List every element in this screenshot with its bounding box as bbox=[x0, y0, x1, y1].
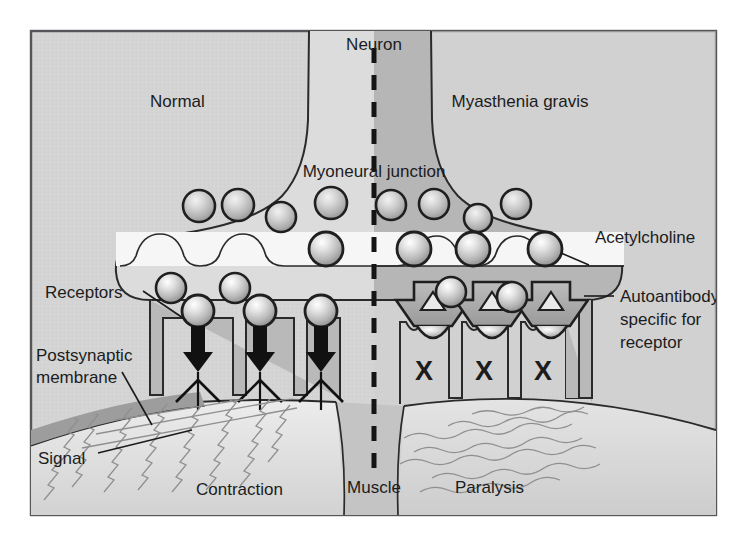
label-normal: Normal bbox=[150, 92, 205, 111]
label-autoantibody-line2: specific for bbox=[620, 310, 702, 329]
blocked-mark-3: X bbox=[534, 356, 552, 386]
label-paralysis: Paralysis bbox=[455, 478, 524, 497]
label-acetylcholine: Acetylcholine bbox=[595, 228, 695, 247]
receptor-spheres-left bbox=[182, 295, 337, 327]
label-autoantibody-line1: Autoantibody bbox=[620, 287, 720, 306]
label-contraction: Contraction bbox=[196, 480, 283, 499]
vesicle-group-cleft-right bbox=[397, 232, 562, 266]
label-myoneural-junction: Myoneural junction bbox=[303, 162, 446, 181]
label-neuron: Neuron bbox=[346, 35, 402, 54]
autoantibody-group bbox=[396, 282, 588, 338]
muscle-neck bbox=[336, 402, 404, 515]
myoneural-junction-diagram: X X X bbox=[0, 0, 744, 545]
label-postsynaptic-membrane-line1: Postsynaptic bbox=[36, 346, 133, 365]
label-signal: Signal bbox=[38, 449, 85, 468]
figure-root: X X X bbox=[0, 0, 744, 545]
blocked-mark-1: X bbox=[415, 356, 433, 386]
label-receptors: Receptors bbox=[45, 283, 122, 302]
vesicle-group-cleft-left bbox=[309, 232, 343, 266]
label-autoantibody-line3: receptor bbox=[620, 333, 683, 352]
label-myasthenia-gravis: Myasthenia gravis bbox=[451, 92, 588, 111]
label-muscle: Muscle bbox=[347, 478, 401, 497]
blocked-mark-2: X bbox=[475, 356, 493, 386]
label-postsynaptic-membrane-line2: membrane bbox=[36, 368, 117, 387]
